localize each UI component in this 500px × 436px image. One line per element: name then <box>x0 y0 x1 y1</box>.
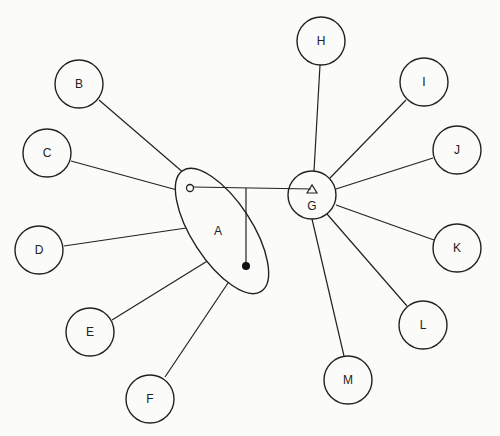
node-label: K <box>453 241 461 255</box>
edge-l-g <box>327 214 407 306</box>
edge-k-g <box>336 205 434 240</box>
filled-dot-icon <box>242 262 250 270</box>
node-label: H <box>317 34 326 48</box>
node-k[interactable]: K <box>433 224 481 272</box>
edge-h-g <box>314 65 320 171</box>
edge-d-a <box>64 227 193 246</box>
node-b[interactable]: B <box>55 60 103 108</box>
node-m[interactable]: M <box>324 356 372 404</box>
node-label: F <box>146 392 153 406</box>
node-j[interactable]: J <box>433 126 481 174</box>
edge-m-g <box>312 219 344 356</box>
edge-e-a <box>112 260 209 320</box>
node-label: B <box>75 77 83 91</box>
network-diagram: AG BCDEFHIJKLM <box>0 0 500 436</box>
hubs: AG <box>158 154 336 307</box>
hub-a[interactable]: A <box>158 154 287 307</box>
node-label: D <box>35 243 44 257</box>
open-circle-icon <box>187 185 194 192</box>
hub-a-label: A <box>214 224 222 238</box>
node-f[interactable]: F <box>126 375 174 423</box>
node-l[interactable]: L <box>399 301 447 349</box>
edge-c-a <box>71 161 177 190</box>
node-label: M <box>343 373 353 387</box>
node-h[interactable]: H <box>297 17 345 65</box>
node-label: C <box>43 146 52 160</box>
node-d[interactable]: D <box>15 226 63 274</box>
node-label: J <box>454 143 460 157</box>
node-label: I <box>422 75 425 89</box>
node-c[interactable]: C <box>23 129 71 177</box>
hub-g-label: G <box>307 199 316 213</box>
hub-g[interactable]: G <box>288 171 336 219</box>
edge-i-g <box>330 100 406 178</box>
edge-b-a <box>99 100 185 174</box>
node-i[interactable]: I <box>400 58 448 106</box>
edge-f-a <box>165 277 232 377</box>
edge-j-g <box>336 158 433 189</box>
node-label: L <box>420 318 427 332</box>
node-e[interactable]: E <box>66 308 114 356</box>
node-label: E <box>86 325 94 339</box>
